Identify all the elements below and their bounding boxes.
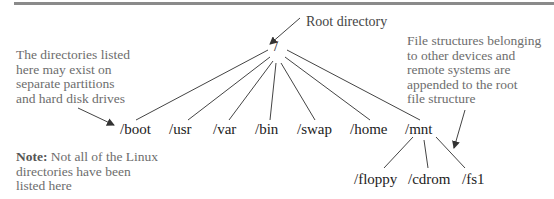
remote-systems-annotation: File structures belonging to other devic… [407, 34, 541, 107]
partitions-annotation: The directories listed here may exist on… [16, 48, 130, 106]
annotation-line: remote systems are [407, 63, 541, 78]
dir-fs1: /fs1 [462, 171, 485, 187]
annotation-line: file structure [407, 92, 541, 107]
annotation-line: File structures belonging [407, 34, 541, 49]
root-directory-callout: Root directory [306, 14, 387, 29]
dir-bin: /bin [255, 121, 278, 137]
annotation-line: The directories listed [16, 48, 130, 63]
root-directory-node: / [274, 38, 278, 55]
annotation-line: to other devices and [407, 49, 541, 64]
note-label: Note: [16, 149, 47, 164]
annotation-line: listed here [16, 179, 158, 194]
annotation-line: directories have been [16, 165, 158, 180]
annotation-line: here may exist on [16, 63, 130, 78]
dir-mnt: /mnt [405, 121, 433, 137]
linux-directories-note: Note: Not all of the Linux directories h… [16, 150, 158, 194]
annotation-line: and hard disk drives [16, 92, 130, 107]
dir-boot: /boot [120, 121, 151, 137]
annotation-line: separate partitions [16, 77, 130, 92]
dir-home: /home [350, 121, 388, 137]
dir-swap: /swap [297, 121, 332, 137]
annotation-line: Not all of the Linux [51, 149, 158, 164]
annotation-line: appended to the root [407, 78, 541, 93]
dir-floppy: /floppy [354, 171, 397, 187]
dir-cdrom: /cdrom [408, 171, 451, 187]
dir-var: /var [213, 121, 236, 137]
dir-usr: /usr [169, 121, 192, 137]
